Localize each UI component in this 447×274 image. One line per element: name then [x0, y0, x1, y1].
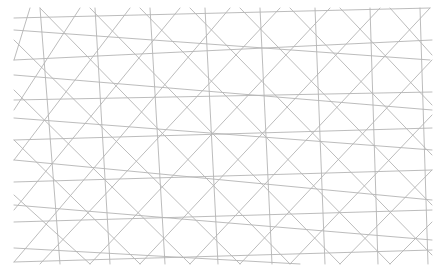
pattern-canvas	[0, 0, 447, 274]
background	[0, 0, 447, 274]
